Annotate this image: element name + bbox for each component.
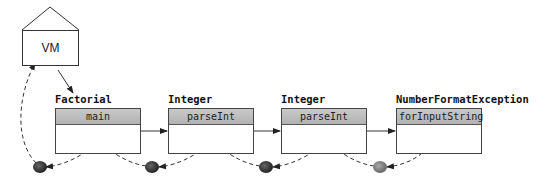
vm-node: VM [22, 30, 79, 66]
stack-frame-factorial: main [55, 108, 141, 154]
return-path-vm [21, 63, 36, 163]
frame-class-label: Integer [281, 93, 325, 105]
frame-method-header: main [56, 109, 140, 125]
stack-dot-1 [145, 161, 159, 173]
stack-dot-2 [259, 161, 273, 173]
frame-class-label: Integer [168, 93, 212, 105]
frame-method-header: forInputString [397, 109, 481, 125]
vm-label: VM [42, 41, 60, 55]
vm-call-arrow [58, 70, 73, 93]
stack-frame-number-format-exception: forInputString [396, 108, 482, 154]
stack-frame-integer-1: parseInt [168, 108, 254, 154]
frame-method-header: parseInt [169, 109, 253, 125]
frame-class-label: NumberFormatException [396, 93, 529, 105]
call-stack-diagram: VM Factorial main Integer parseInt Integ… [0, 0, 544, 189]
stack-dot-0 [33, 161, 47, 173]
stack-frame-integer-2: parseInt [281, 108, 367, 154]
frame-class-label: Factorial [55, 93, 112, 105]
frame-method-header: parseInt [282, 109, 366, 125]
vm-roof [22, 7, 79, 30]
stack-dot-3 [373, 161, 387, 173]
